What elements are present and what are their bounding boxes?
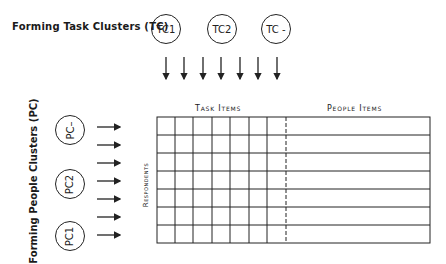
right-arrows — [97, 127, 120, 235]
matrix-grid — [157, 117, 430, 243]
diagram-lines — [0, 0, 446, 264]
down-arrows — [166, 57, 277, 79]
